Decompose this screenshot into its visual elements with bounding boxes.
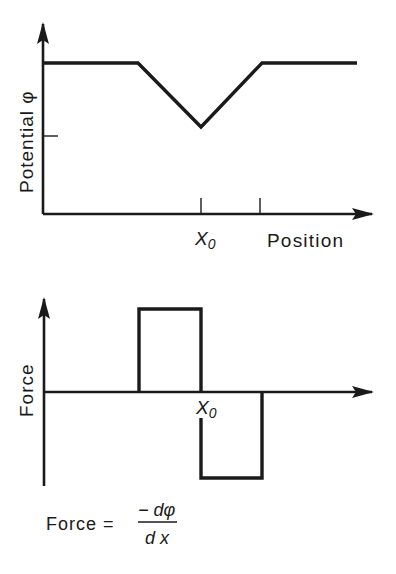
- force-x0-label: X0: [195, 397, 217, 421]
- force-positive-pulse: [139, 309, 201, 392]
- potential-x-label: Position: [267, 230, 344, 251]
- formula-denominator: d x: [145, 528, 170, 548]
- force-formula: Force = − dφ d x: [46, 500, 177, 548]
- formula-numerator: − dφ: [138, 500, 176, 520]
- figure: Potential φ X0 Position Force X0 Force =…: [0, 0, 396, 574]
- force-y-label: Force: [16, 363, 37, 417]
- potential-y-label: Potential φ: [16, 90, 37, 193]
- potential-plot: Potential φ X0 Position: [16, 24, 372, 252]
- force-plot: Force X0: [16, 299, 372, 486]
- potential-curve: [43, 63, 357, 127]
- formula-lhs: Force =: [46, 514, 115, 534]
- potential-x0-label: X0: [194, 228, 216, 252]
- diagram-canvas: Potential φ X0 Position Force X0 Force =…: [0, 0, 396, 574]
